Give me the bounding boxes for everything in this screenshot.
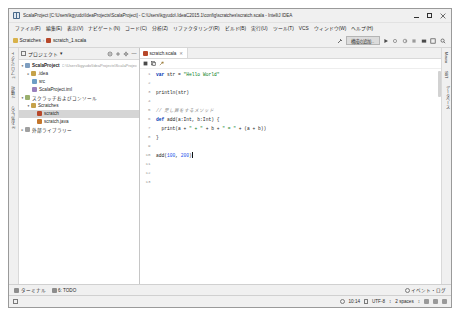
- tree-node-label: スクラッチおよびコンソール: [32, 95, 97, 101]
- rail-tab-maven[interactable]: Maven: [444, 50, 449, 65]
- search-everywhere-icon[interactable]: [439, 37, 446, 44]
- tree-node-scratch-java[interactable]: scratch.java: [19, 118, 139, 126]
- navigation-bar: Scratches › scratch_1.scala 構成の追加...: [9, 34, 451, 48]
- menu-window[interactable]: ウィンドウ(W): [311, 23, 349, 34]
- menu-edit[interactable]: 編集(E): [43, 23, 64, 34]
- rail-tab-favorites[interactable]: 2: お気に入り: [11, 104, 17, 131]
- code-line: // 足し算をするメソッド: [156, 106, 441, 115]
- menu-analyze[interactable]: 分析(Z): [149, 23, 170, 34]
- code-token: println(str): [156, 90, 189, 95]
- run-with-coverage-icon[interactable]: [401, 37, 408, 44]
- menu-navigate[interactable]: ナビゲート(N): [86, 23, 123, 34]
- breadcrumb-item-scratches[interactable]: Scratches: [20, 38, 41, 43]
- bottom-tab-terminal[interactable]: ターミナル: [14, 287, 46, 293]
- project-view-dropdown-caret[interactable]: ▾: [60, 51, 62, 56]
- run-icon[interactable]: [382, 37, 389, 44]
- code-line: [156, 178, 441, 187]
- editor-scrollbar-thumb[interactable]: [438, 71, 441, 97]
- tree-node-label: scratch: [44, 111, 59, 116]
- rail-tab-project[interactable]: 1: プロジェクト: [11, 50, 17, 81]
- lock-icon[interactable]: [364, 299, 368, 304]
- library-icon: [25, 127, 30, 132]
- code-editor[interactable]: 1 2 3 4 5 6 7 8 9 10 11 12 13 var str = …: [140, 69, 441, 284]
- toggle-toolwindows-icon[interactable]: [13, 299, 18, 304]
- iml-file-icon: [32, 87, 37, 92]
- settings-icon[interactable]: [430, 37, 437, 44]
- project-tool-window: プロジェクト ▾ — ▾ ScalaProject: [19, 48, 140, 284]
- build-hammer-icon[interactable]: [336, 37, 343, 44]
- copy-icon[interactable]: [151, 61, 156, 66]
- indent-caret[interactable]: ↕: [418, 299, 420, 304]
- terminal-icon: [14, 288, 19, 293]
- app-icon: [13, 12, 20, 19]
- code-token: print(a +: [156, 126, 189, 131]
- tree-node-scalaproject[interactable]: ▾ ScalaProject C:\Users\kgyudo\IdeaProje…: [19, 62, 139, 70]
- wrench-icon[interactable]: [159, 61, 164, 66]
- code-token: add(: [156, 153, 167, 158]
- encoding-caret[interactable]: ↕: [389, 299, 391, 304]
- line-number: 6: [140, 115, 151, 124]
- menu-refactor[interactable]: リファクタリング(R): [170, 23, 222, 34]
- hide-panel-icon[interactable]: —: [131, 51, 137, 57]
- tree-node-idea[interactable]: ▸ .idea: [19, 70, 139, 78]
- menu-file[interactable]: ファイル(F): [12, 23, 43, 34]
- minimize-button[interactable]: [410, 10, 423, 21]
- run-scratch-icon[interactable]: [143, 61, 148, 66]
- code-text[interactable]: var str = "Hello World" println(str) // …: [153, 69, 441, 284]
- code-line: var str = "Hello World": [156, 70, 441, 79]
- add-configuration-button[interactable]: 構成の追加...: [346, 36, 380, 45]
- event-log-button[interactable]: イベント・ログ: [405, 287, 452, 293]
- expand-all-icon[interactable]: [115, 51, 121, 57]
- line-separator-icon[interactable]: [424, 299, 429, 304]
- collapse-all-icon[interactable]: [107, 51, 113, 57]
- bottom-tab-todo[interactable]: 6: TODO: [52, 288, 77, 293]
- code-line: [156, 97, 441, 106]
- tree-node-label: src: [39, 79, 45, 84]
- caret-position[interactable]: 10:14: [349, 299, 361, 304]
- tree-node-scratches-root[interactable]: ▾ スクラッチおよびコンソール: [19, 94, 139, 102]
- close-tab-icon[interactable]: ✕: [179, 51, 183, 56]
- vcs-update-icon[interactable]: [420, 37, 427, 44]
- breadcrumb-item-file[interactable]: scratch_1.scala: [53, 38, 86, 43]
- tree-node-path: C:\Users\kgyudo\IdeaProjects\ScalaProjec…: [62, 63, 137, 68]
- inspection-icon[interactable]: [433, 299, 438, 304]
- editor-tab-scratch-scala[interactable]: scratch.scala ✕: [140, 48, 188, 58]
- rail-tab-database[interactable]: データベース: [444, 84, 450, 111]
- code-line: }: [156, 133, 441, 142]
- menu-tools[interactable]: ツール(T): [270, 23, 296, 34]
- menu-build[interactable]: ビルド(B): [222, 23, 248, 34]
- settings-gear-icon[interactable]: [123, 51, 129, 57]
- project-panel-header: プロジェクト ▾ —: [19, 48, 139, 60]
- code-token: var: [156, 72, 167, 77]
- tree-node-iml[interactable]: ScalaProject.iml: [19, 86, 139, 94]
- window-controls: [410, 10, 451, 21]
- window-title: ScalaProject [C:\Users\kgyudo\IdeaProjec…: [23, 13, 410, 18]
- stop-icon[interactable]: [411, 37, 418, 44]
- menu-view[interactable]: 表示(V): [65, 23, 86, 34]
- maximize-button[interactable]: [423, 10, 436, 21]
- tree-node-scratches[interactable]: ▾ Scratches: [19, 102, 139, 110]
- rail-tab-structure[interactable]: 7: 構造: [11, 85, 17, 100]
- tree-node-label: scratch.java: [44, 119, 69, 124]
- editor-scrollbar[interactable]: [437, 69, 441, 284]
- code-token: def: [156, 117, 167, 122]
- rail-tab-sbt[interactable]: SBT: [444, 69, 449, 80]
- main-toolbar: 構成の追加...: [336, 36, 451, 45]
- tree-node-scratch-selected[interactable]: scratch: [19, 110, 139, 118]
- editor-tab-label: scratch.scala: [150, 51, 177, 56]
- status-right: 10:14 UTF-8 ↕ 2 spaces ↕: [340, 299, 448, 304]
- indent-label[interactable]: 2 spaces: [395, 299, 413, 304]
- menu-help[interactable]: ヘルプ(H): [349, 23, 376, 34]
- tree-node-src[interactable]: src: [19, 78, 139, 86]
- menu-vcs[interactable]: VCS: [296, 23, 311, 34]
- menu-code[interactable]: コード(C): [123, 23, 150, 34]
- close-button[interactable]: [436, 10, 449, 21]
- code-line: def add(a:Int, b:Int) {: [156, 115, 441, 124]
- trash-icon[interactable]: [442, 299, 447, 304]
- background-tasks-icon[interactable]: [340, 299, 345, 304]
- menu-run[interactable]: 実行(U): [248, 23, 270, 34]
- encoding-label[interactable]: UTF-8: [372, 299, 385, 304]
- tree-node-external-libraries[interactable]: ▸ 外部ライブラリー: [19, 126, 139, 134]
- code-line: print(a + " + " + b + " = " + (a + b)): [156, 124, 441, 133]
- debug-icon[interactable]: [392, 37, 399, 44]
